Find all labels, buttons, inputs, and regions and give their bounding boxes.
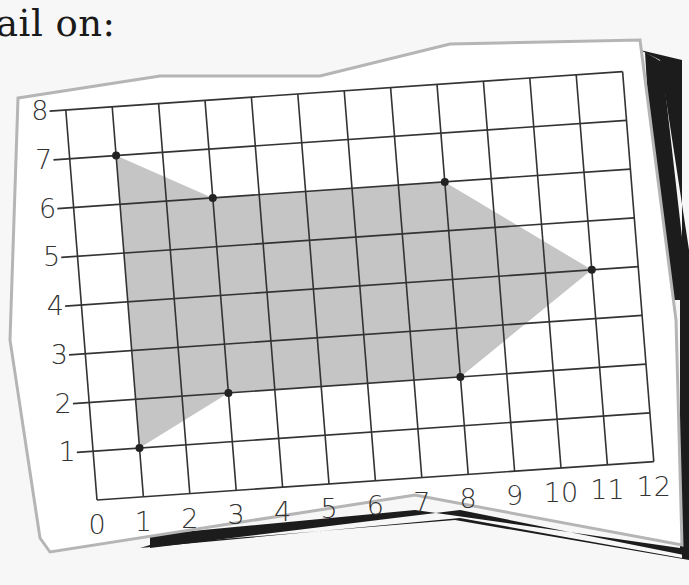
x-axis-tick-label: 3: [228, 499, 245, 530]
y-axis-tick-label: 7: [35, 144, 52, 175]
x-axis-tick-label: 4: [274, 496, 291, 527]
y-axis-tick-label: 8: [31, 95, 48, 126]
vertex-dot: [224, 389, 232, 397]
x-axis-tick-label: 0: [88, 509, 105, 540]
vertex-dot: [441, 178, 449, 186]
coordinate-grid-figure: 012345678910111212345678: [0, 0, 689, 585]
y-axis-tick-label: 2: [55, 388, 72, 419]
x-axis-tick-label: 2: [181, 503, 198, 534]
vertex-dot: [588, 266, 596, 274]
x-axis-tick-label: 12: [637, 471, 671, 502]
vertex-dot: [209, 194, 217, 202]
x-axis-tick-label: 10: [544, 477, 578, 508]
vertex-dot: [456, 373, 464, 381]
y-axis-tick-label: 1: [59, 436, 76, 467]
x-axis-tick-label: 7: [413, 487, 430, 518]
vertex-dot: [112, 152, 120, 160]
y-axis-tick-label: 6: [39, 193, 56, 224]
x-axis-tick-label: 9: [506, 480, 523, 511]
vertex-dot: [136, 444, 144, 452]
x-axis-tick-label: 6: [367, 490, 384, 521]
x-axis-tick-label: 8: [460, 483, 477, 514]
x-axis-tick-label: 1: [135, 506, 152, 537]
y-axis-tick-label: 5: [43, 241, 60, 272]
x-axis-tick-label: 5: [320, 493, 337, 524]
y-axis-tick-label: 3: [51, 339, 68, 370]
x-axis-tick-label: 11: [590, 474, 624, 505]
y-axis-tick-label: 4: [47, 290, 64, 321]
